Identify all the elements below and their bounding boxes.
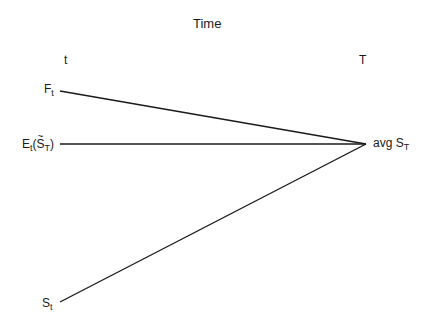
forward-to-average-line (60, 91, 366, 144)
spot-to-average-line (60, 144, 366, 302)
convergence-lines (0, 0, 430, 334)
